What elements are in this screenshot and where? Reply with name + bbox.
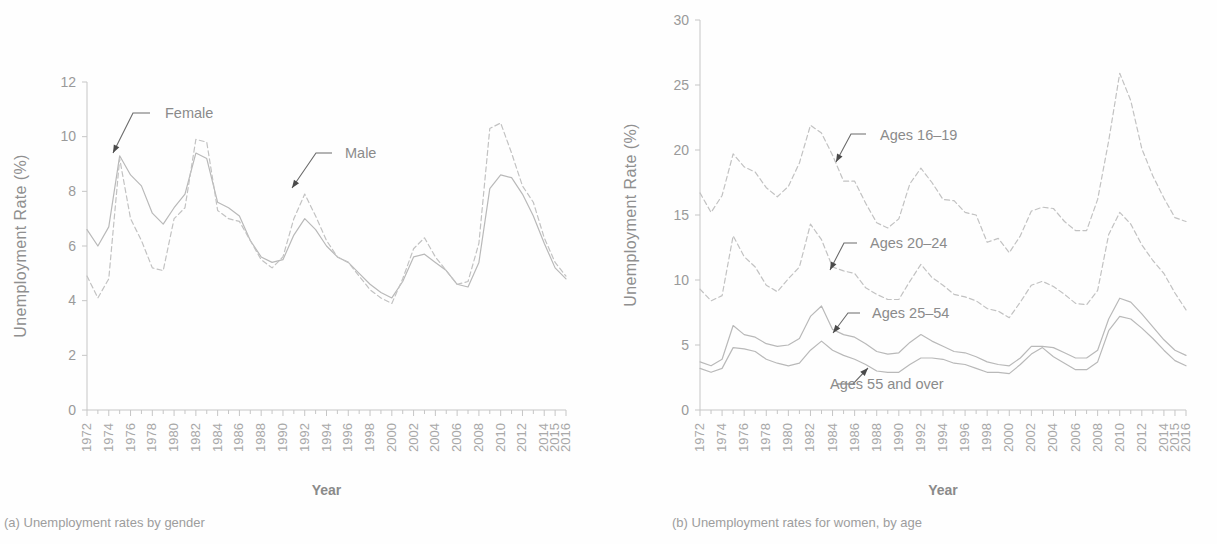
series-line-ages-20-24 bbox=[700, 212, 1186, 317]
x-tick-label: 2004 bbox=[427, 423, 442, 452]
x-tick-label: 1990 bbox=[275, 423, 290, 452]
series-line-female bbox=[87, 153, 566, 298]
x-tick-label: 1976 bbox=[736, 423, 751, 452]
y-tick-label: 4 bbox=[68, 292, 76, 308]
annotation-arrowhead bbox=[113, 144, 119, 153]
y-tick-label: 20 bbox=[673, 142, 689, 158]
y-tick-label: 15 bbox=[673, 207, 689, 223]
chart-b-unemployment-women-by-age: 0510152025301972197419761978198019821984… bbox=[608, 0, 1217, 500]
x-tick-label: 1988 bbox=[253, 423, 268, 452]
x-tick-label: 1982 bbox=[188, 423, 203, 452]
x-tick-label: 1984 bbox=[210, 423, 225, 452]
annotation-arrowhead bbox=[830, 261, 836, 270]
x-tick-label: 1974 bbox=[101, 423, 116, 452]
y-tick-label: 12 bbox=[60, 74, 76, 90]
y-tick-label: 5 bbox=[681, 337, 689, 353]
x-axis-label: Year bbox=[312, 482, 342, 498]
figure-container: 0246810121972197419761978198019821984198… bbox=[0, 0, 1217, 544]
y-tick-label: 25 bbox=[673, 77, 689, 93]
x-tick-label: 2016 bbox=[1178, 423, 1193, 452]
y-tick-label: 10 bbox=[673, 272, 689, 288]
panel-a: 0246810121972197419761978198019821984198… bbox=[0, 0, 608, 544]
x-tick-label: 2002 bbox=[1023, 423, 1038, 452]
x-tick-label: 2006 bbox=[449, 423, 464, 452]
series-line-male bbox=[87, 123, 566, 303]
y-tick-label: 0 bbox=[681, 402, 689, 418]
x-tick-label: 2010 bbox=[1112, 423, 1127, 452]
x-tick-label: 2012 bbox=[514, 423, 529, 452]
x-tick-label: 1986 bbox=[847, 423, 862, 452]
y-axis-label: Unemployment Rate (%) bbox=[12, 154, 29, 338]
x-tick-label: 1996 bbox=[957, 423, 972, 452]
x-tick-label: 2008 bbox=[471, 423, 486, 452]
x-tick-label: 1992 bbox=[913, 423, 928, 452]
x-tick-label: 2008 bbox=[1090, 423, 1105, 452]
x-tick-label: 1980 bbox=[780, 423, 795, 452]
y-tick-label: 6 bbox=[68, 238, 76, 254]
x-axis-label: Year bbox=[928, 482, 958, 498]
x-tick-label: 1972 bbox=[692, 423, 707, 452]
x-tick-label: 2016 bbox=[558, 423, 573, 452]
x-tick-label: 1992 bbox=[297, 423, 312, 452]
x-tick-label: 1998 bbox=[979, 423, 994, 452]
y-tick-label: 2 bbox=[68, 347, 76, 363]
annotation-label: Female bbox=[165, 105, 213, 121]
x-tick-label: 1994 bbox=[935, 423, 950, 452]
x-tick-label: 1978 bbox=[144, 423, 159, 452]
x-tick-label: 1986 bbox=[231, 423, 246, 452]
x-tick-label: 2012 bbox=[1134, 423, 1149, 452]
chart-a-unemployment-by-gender: 0246810121972197419761978198019821984198… bbox=[0, 0, 608, 500]
x-tick-label: 1996 bbox=[340, 423, 355, 452]
x-tick-label: 1984 bbox=[825, 423, 840, 452]
panel-a-caption: (a) Unemployment rates by gender bbox=[4, 515, 205, 530]
axis-lines bbox=[700, 20, 1186, 410]
x-tick-label: 2004 bbox=[1045, 423, 1060, 452]
x-tick-label: 1982 bbox=[802, 423, 817, 452]
x-tick-label: 1994 bbox=[319, 423, 334, 452]
y-tick-label: 0 bbox=[68, 402, 76, 418]
x-tick-label: 1974 bbox=[714, 423, 729, 452]
panel-b: 0510152025301972197419761978198019821984… bbox=[608, 0, 1217, 544]
y-tick-label: 30 bbox=[673, 12, 689, 28]
y-tick-label: 8 bbox=[68, 183, 76, 199]
annotation-label: Ages 16–19 bbox=[880, 127, 957, 143]
annotation-label: Ages 55 and over bbox=[830, 376, 944, 392]
x-tick-label: 2006 bbox=[1068, 423, 1083, 452]
panel-b-caption: (b) Unemployment rates for women, by age bbox=[672, 515, 922, 530]
x-tick-label: 1988 bbox=[869, 423, 884, 452]
x-tick-label: 1972 bbox=[79, 423, 94, 452]
x-tick-label: 2010 bbox=[493, 423, 508, 452]
x-tick-label: 1990 bbox=[891, 423, 906, 452]
x-tick-label: 2000 bbox=[384, 423, 399, 452]
annotation-arrowhead bbox=[836, 153, 843, 162]
x-tick-label: 1978 bbox=[758, 423, 773, 452]
x-tick-label: 1976 bbox=[123, 423, 138, 452]
annotation-label: Ages 20–24 bbox=[870, 235, 947, 251]
x-tick-label: 2002 bbox=[406, 423, 421, 452]
annotation-label: Ages 25–54 bbox=[872, 305, 949, 321]
y-axis-label: Unemployment Rate (%) bbox=[622, 123, 639, 307]
annotation-arrowhead bbox=[292, 180, 299, 188]
x-tick-label: 1980 bbox=[166, 423, 181, 452]
x-tick-label: 2000 bbox=[1001, 423, 1016, 452]
x-tick-label: 1998 bbox=[362, 423, 377, 452]
annotation-label: Male bbox=[345, 145, 376, 161]
y-tick-label: 10 bbox=[60, 128, 76, 144]
